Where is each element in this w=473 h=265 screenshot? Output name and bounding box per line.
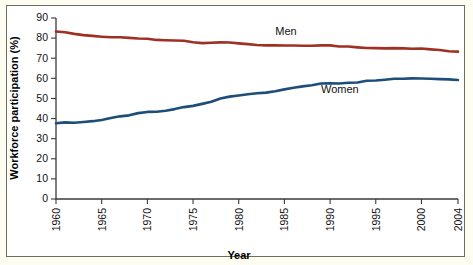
y-tick-label: 10	[36, 172, 48, 184]
series-line-men	[56, 31, 458, 51]
x-tick-label: 2004	[452, 208, 464, 232]
y-tick-label: 40	[36, 112, 48, 124]
y-tick-label: 90	[36, 11, 48, 23]
x-tick-label: 1990	[324, 208, 336, 232]
x-tick-label: 1970	[141, 208, 153, 232]
x-axis-title: Year	[227, 249, 251, 261]
y-tick-label: 0	[42, 192, 48, 204]
y-tick-label: 50	[36, 92, 48, 104]
x-tick-label: 1985	[278, 208, 290, 232]
x-tick-label: 1965	[96, 208, 108, 232]
series-label-men: Men	[275, 25, 296, 37]
series-line-women	[56, 78, 458, 123]
chart-canvas: 0102030405060708090 19601965197019751980…	[0, 0, 473, 265]
series-label-women: Women	[321, 83, 359, 95]
line-chart-svg: 0102030405060708090 19601965197019751980…	[0, 0, 473, 265]
x-tick-label: 1975	[187, 208, 199, 232]
x-tick-label: 2000	[415, 208, 427, 232]
x-tick-label: 1980	[233, 208, 245, 232]
x-tick-label: 1995	[370, 208, 382, 232]
y-axis-ticks: 0102030405060708090	[36, 11, 56, 204]
y-axis-title: Workforce participation (%)	[8, 36, 20, 180]
y-tick-label: 80	[36, 31, 48, 43]
x-tick-label: 1960	[50, 208, 62, 232]
y-tick-label: 70	[36, 52, 48, 64]
y-tick-label: 60	[36, 72, 48, 84]
x-axis-ticks: 1960196519701975198019851990199520002004	[50, 199, 464, 231]
y-tick-label: 20	[36, 152, 48, 164]
y-tick-label: 30	[36, 132, 48, 144]
